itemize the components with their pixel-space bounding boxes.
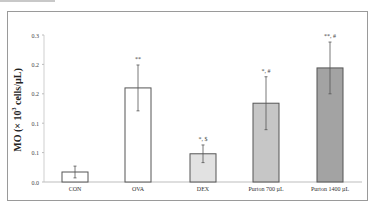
y-tick-label: 0.2	[32, 91, 40, 97]
x-tick-label: OVA	[132, 186, 145, 192]
x-tick-label: DEX	[197, 186, 210, 192]
x-tick-label: Purton 1400 µL	[311, 186, 349, 192]
y-tick-label: 0.1	[32, 121, 40, 127]
y-tick-label: 0.0	[32, 180, 40, 186]
bars: CON**OVA*, $DEX*, #Purton 700 µL**, #Pur…	[62, 33, 349, 192]
significance-annotation: **, #	[324, 33, 336, 39]
bar-chart-plot: 0.00.10.10.20.20.3 CON**OVA*, $DEX*, #Pu…	[0, 0, 376, 210]
y-tick-label: 0.3	[32, 33, 40, 39]
y-tick-label: 0.2	[32, 62, 40, 68]
x-tick-label: CON	[69, 186, 82, 192]
x-tick-label: Purton 700 µL	[248, 186, 283, 192]
y-tick-label: 0.1	[32, 150, 40, 156]
significance-annotation: **	[135, 56, 141, 62]
significance-annotation: *, #	[262, 68, 271, 74]
significance-annotation: *, $	[199, 136, 208, 142]
